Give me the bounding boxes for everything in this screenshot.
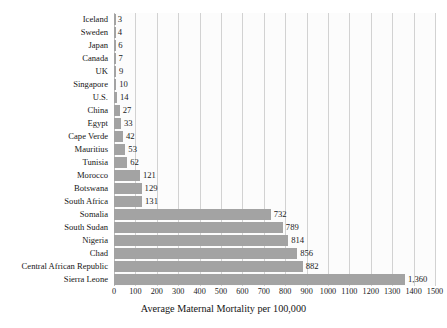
bar-row: 4	[114, 26, 435, 39]
x-tick-label: 1400	[405, 287, 421, 296]
category-label: Morocco	[0, 169, 110, 182]
bar	[114, 274, 405, 284]
category-label: UK	[0, 65, 110, 78]
bar	[114, 222, 283, 232]
x-tick-label: 600	[236, 287, 248, 296]
bar-row: 732	[114, 208, 435, 221]
bar-row: 53	[114, 143, 435, 156]
bar	[114, 131, 123, 141]
category-label: Mauritius	[0, 143, 110, 156]
x-tick-label: 1000	[320, 287, 336, 296]
bar-row: 129	[114, 182, 435, 195]
x-tick-label: 1100	[341, 287, 357, 296]
bar-value-label: 27	[123, 104, 132, 117]
bar-row: 7	[114, 52, 435, 65]
bar-row: 6	[114, 39, 435, 52]
x-tick-label: 300	[172, 287, 184, 296]
category-label-column: IcelandSwedenJapanCanadaUKSingaporeU.S.C…	[0, 13, 110, 286]
category-label: U.S.	[0, 91, 110, 104]
bar-row: 10	[114, 78, 435, 91]
bar-value-label: 14	[120, 91, 129, 104]
bar	[114, 209, 271, 219]
bar-row: 42	[114, 130, 435, 143]
bar-value-label: 42	[126, 130, 135, 143]
bar	[114, 235, 288, 245]
bar-value-label: 7	[118, 52, 122, 65]
bar-row: 814	[114, 234, 435, 247]
category-label: Singapore	[0, 78, 110, 91]
bar-row: 1,360	[114, 273, 435, 286]
bar-value-label: 882	[306, 260, 319, 273]
x-tick-label: 800	[279, 287, 291, 296]
bar-value-label: 4	[118, 26, 122, 39]
bar-row: 14	[114, 91, 435, 104]
category-label: Chad	[0, 247, 110, 260]
bar	[114, 53, 116, 63]
bar-value-label: 856	[300, 247, 313, 260]
bar	[114, 248, 297, 258]
x-axis-tick-labels: 0100200300400500600700800900100011001200…	[114, 287, 435, 301]
bar	[114, 92, 117, 102]
bar-value-label: 131	[145, 195, 158, 208]
bar-row: 62	[114, 156, 435, 169]
maternal-mortality-bar-chart: IcelandSwedenJapanCanadaUKSingaporeU.S.C…	[0, 0, 447, 328]
bar-row: 33	[114, 117, 435, 130]
category-label: Central African Republic	[0, 260, 110, 273]
bar-row: 121	[114, 169, 435, 182]
bar-value-label: 732	[274, 208, 287, 221]
category-label: Egypt	[0, 117, 110, 130]
category-label: Botswana	[0, 182, 110, 195]
category-label: Tunisia	[0, 156, 110, 169]
bar-value-label: 1,360	[408, 273, 427, 286]
bar	[114, 27, 116, 37]
x-axis-title: Average Maternal Mortality per 100,000	[0, 303, 447, 314]
x-tick-label: 1300	[384, 287, 400, 296]
bar-value-label: 3	[118, 13, 122, 26]
bar	[114, 170, 140, 180]
category-label: Japan	[0, 39, 110, 52]
bar-row: 3	[114, 13, 435, 26]
bar-value-label: 62	[130, 156, 139, 169]
bar-value-label: 6	[118, 39, 122, 52]
category-label: South Sudan	[0, 221, 110, 234]
category-label: Cape Verde	[0, 130, 110, 143]
x-tick-label: 0	[112, 287, 116, 296]
bar-row: 789	[114, 221, 435, 234]
bar	[114, 157, 127, 167]
bar	[114, 118, 121, 128]
bar	[114, 196, 142, 206]
category-label: South Africa	[0, 195, 110, 208]
bar	[114, 105, 120, 115]
x-tick-label: 200	[151, 287, 163, 296]
bar-value-label: 814	[291, 234, 304, 247]
bar-row: 131	[114, 195, 435, 208]
gridline-1500	[435, 13, 436, 286]
bar	[114, 144, 125, 154]
x-tick-label: 1200	[363, 287, 379, 296]
bar-row: 856	[114, 247, 435, 260]
category-label: Sierra Leone	[0, 273, 110, 286]
bar-value-label: 33	[124, 117, 133, 130]
category-label: China	[0, 104, 110, 117]
bar-row: 27	[114, 104, 435, 117]
plot-area: 3467910142733425362121129131732789814856…	[114, 13, 435, 286]
bar	[114, 79, 116, 89]
bar-value-label: 789	[286, 221, 299, 234]
bar	[114, 14, 116, 24]
bar	[114, 261, 303, 271]
bar	[114, 183, 142, 193]
category-label: Canada	[0, 52, 110, 65]
bar-value-label: 121	[143, 169, 156, 182]
x-tick-label: 700	[258, 287, 270, 296]
bar-value-label: 10	[119, 78, 128, 91]
x-tick-label: 500	[215, 287, 227, 296]
category-label: Nigeria	[0, 234, 110, 247]
x-tick-label: 1500	[427, 287, 443, 296]
bar-row: 9	[114, 65, 435, 78]
category-label: Sweden	[0, 26, 110, 39]
bar-value-label: 53	[128, 143, 137, 156]
bar	[114, 66, 116, 76]
bar-row: 882	[114, 260, 435, 273]
x-tick-label: 900	[300, 287, 312, 296]
bar-value-label: 9	[119, 65, 123, 78]
